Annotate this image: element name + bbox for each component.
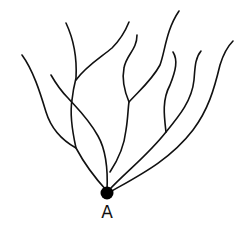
branch-cross-left — [51, 75, 107, 191]
branches — [22, 11, 233, 192]
branch-center-trunk — [110, 35, 137, 172]
branch-left-trunk — [66, 23, 76, 148]
branch-far-right — [110, 41, 233, 192]
branch-right-mid — [109, 52, 176, 190]
branching-tree-diagram: A — [0, 0, 248, 225]
branch-left-upper — [76, 22, 129, 80]
branch-far-left — [22, 55, 107, 191]
branch-right-mid-2 — [166, 51, 201, 132]
branch-center-upper — [129, 11, 179, 102]
root-node-a — [101, 187, 114, 200]
root-label: A — [101, 202, 113, 222]
